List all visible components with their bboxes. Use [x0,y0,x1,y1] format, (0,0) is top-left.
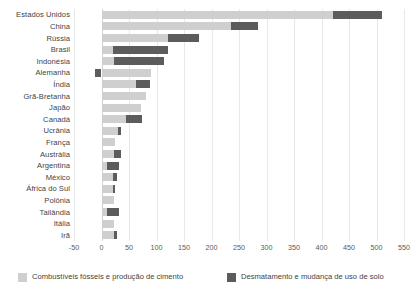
category-axis-labels: Estados UnidosChinaRússiaBrasilIndonésia… [0,9,70,241]
bar-segment-land [113,173,117,181]
x-tick-label: 350 [288,243,300,253]
bar-row [74,127,404,135]
bar-segment-land [136,80,150,88]
chart-legend: Combustíveis fósseis e produção de cimen… [0,272,416,288]
legend-swatch-icon [18,273,27,282]
bar-row [74,208,404,216]
bar-segment-land [113,185,115,193]
bar-row [74,150,404,158]
bar-segment-fossil [102,69,152,77]
x-tick-label: 550 [398,243,410,253]
bar-segment-land [114,231,117,239]
x-axis-tick-labels: -50050100150200250300350400450500550 [74,243,404,257]
x-tick-label: 500 [371,243,383,253]
bar-row [74,220,404,228]
bar-row [74,92,404,100]
bar-segment-land [107,162,119,170]
bar-segment-fossil [102,80,137,88]
bar-row [74,185,404,193]
bar-segment-land [114,57,165,65]
bar-segment-fossil [102,127,119,135]
bar-segment-fossil [102,115,127,123]
category-label: Estados Unidos [16,10,70,19]
category-label: Indonésia [37,57,70,66]
x-tick-label: 250 [233,243,245,253]
x-tick-label: 450 [343,243,355,253]
category-label: Índia [53,80,70,89]
bar-row [74,115,404,123]
bar-row [74,231,404,239]
category-label: Brasil [51,45,70,54]
bar-segment-land [107,208,119,216]
category-label: França [46,138,70,147]
bar-segment-land [231,22,259,30]
category-label: Irã [61,231,70,240]
x-tick-label: 400 [316,243,328,253]
bar-segment-fossil [102,22,231,30]
x-tick-label: 300 [261,243,273,253]
legend-item-fossil[interactable]: Combustíveis fósseis e produção de cimen… [18,272,183,282]
category-label: Japão [49,103,70,112]
bar-row [74,162,404,170]
bar-segment-land [118,127,121,135]
bar-segment-fossil [102,185,113,193]
bar-row [74,80,404,88]
bar-segment-fossil [102,46,113,54]
category-label: Ucrânia [43,126,70,135]
x-tick-label: 0 [100,243,104,253]
bar-segment-fossil [102,138,116,146]
x-tick-label: 150 [178,243,190,253]
category-label: Argentina [37,161,70,170]
bar-segment-land [333,11,383,19]
category-label: Alemanha [35,68,70,77]
legend-swatch-icon [227,273,236,282]
bar-segment-fossil [102,92,146,100]
bar-row [74,22,404,30]
category-label: África do Sul [26,184,70,193]
bar-segment-fossil [102,231,114,239]
bar-row [74,196,404,204]
x-tick-label: 50 [125,243,133,253]
category-label: China [50,22,70,31]
bar-segment-land [168,34,200,42]
bar-segment-land [95,69,102,77]
x-tick-label: 100 [151,243,163,253]
bar-segment-fossil [102,196,114,204]
bar-segment-fossil [102,57,114,65]
bars [74,9,404,241]
category-label: Grã-Bretanha [23,92,70,101]
category-label: Tailândia [40,208,70,217]
bar-segment-land [113,46,168,54]
x-tick-label: -50 [69,243,79,253]
bar-segment-fossil [102,173,113,181]
bar-row [74,11,404,19]
gridline-550 [404,9,405,241]
bar-segment-fossil [102,34,168,42]
legend-label: Desmatamento e mudança de uso de solo [241,272,384,282]
category-label: Polônia [44,196,70,205]
bar-row [74,104,404,112]
bar-segment-land [126,115,141,123]
category-label: Canadá [43,115,70,124]
stacked-bar-chart: Estados UnidosChinaRússiaBrasilIndonésia… [0,0,416,297]
bar-row [74,173,404,181]
bar-segment-fossil [102,11,333,19]
bar-row [74,69,404,77]
bar-row [74,46,404,54]
bar-segment-fossil [102,104,142,112]
category-label: Austrália [40,150,70,159]
bar-row [74,34,404,42]
legend-label: Combustíveis fósseis e produção de cimen… [32,272,183,282]
bar-segment-land [114,150,122,158]
x-tick-label: 200 [206,243,218,253]
bar-row [74,138,404,146]
bar-segment-fossil [102,150,114,158]
category-label: Itália [54,219,70,228]
bar-segment-fossil [102,220,114,228]
bar-row [74,57,404,65]
plot-area [74,9,404,241]
legend-item-land[interactable]: Desmatamento e mudança de uso de solo [227,272,384,282]
category-label: México [46,173,70,182]
category-label: Rússia [46,34,70,43]
